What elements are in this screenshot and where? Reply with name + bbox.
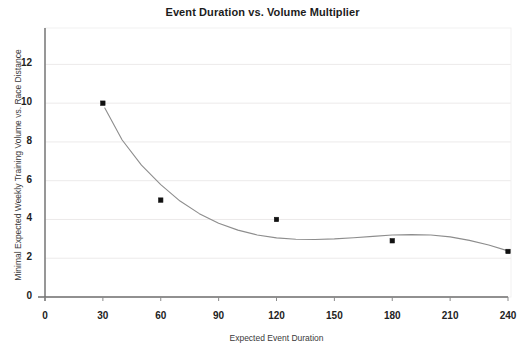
x-tick-label: 240 <box>488 310 525 321</box>
data-points <box>101 101 511 254</box>
y-tick-label: 4 <box>2 212 32 223</box>
axis-lines <box>38 28 508 301</box>
x-tick-label: 180 <box>372 310 412 321</box>
x-tick-label: 210 <box>430 310 470 321</box>
x-tick-label: 150 <box>314 310 354 321</box>
plot-area <box>0 0 525 357</box>
plot-border <box>45 28 511 297</box>
gridlines <box>45 64 511 258</box>
x-tick-label: 30 <box>83 310 123 321</box>
chart-container: Event Duration vs. Volume Multiplier Min… <box>0 0 525 357</box>
y-tick-label: 10 <box>2 96 32 107</box>
x-tick-label: 60 <box>141 310 181 321</box>
x-tick-label: 120 <box>257 310 297 321</box>
y-tick-label: 8 <box>2 135 32 146</box>
x-tick-label: 0 <box>25 310 65 321</box>
y-tick-label: 2 <box>2 251 32 262</box>
x-tick-label: 90 <box>199 310 239 321</box>
y-tick-label: 12 <box>2 57 32 68</box>
y-tick-label: 6 <box>2 174 32 185</box>
y-tick-label: 0 <box>2 290 32 301</box>
fitted-curve <box>105 108 508 251</box>
